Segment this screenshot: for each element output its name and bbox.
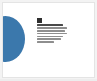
document-thumbnail-viewer[interactable]	[0, 0, 97, 81]
page-shadow	[0, 79, 97, 81]
brand-mark-icon	[37, 18, 42, 23]
text-line	[37, 41, 54, 43]
text-line	[37, 27, 67, 29]
text-line	[37, 38, 61, 40]
text-line-heading	[37, 24, 63, 26]
document-page[interactable]	[2, 2, 95, 78]
text-line	[37, 36, 63, 38]
content-text-block	[37, 18, 67, 44]
text-line	[37, 30, 65, 32]
decorative-circle-graphic	[2, 16, 25, 62]
text-line	[37, 33, 67, 35]
